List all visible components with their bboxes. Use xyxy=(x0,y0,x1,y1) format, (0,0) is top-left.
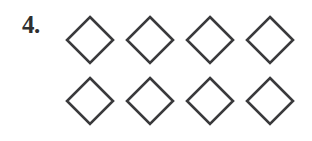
diamond-shape-8 xyxy=(242,73,302,134)
shape-grid xyxy=(62,12,302,134)
diamond-shape-1 xyxy=(62,12,122,73)
diamond-icon xyxy=(64,14,116,66)
diamond-icon xyxy=(244,75,296,127)
diamond-shape-5 xyxy=(62,73,122,134)
diamond-shape-6 xyxy=(122,73,182,134)
worksheet-item: 4. xyxy=(0,0,312,141)
item-number-label: 4. xyxy=(22,10,40,40)
diamond-shape-7 xyxy=(182,73,242,134)
diamond-shape-4 xyxy=(242,12,302,73)
diamond-icon xyxy=(64,75,116,127)
diamond-icon xyxy=(184,14,236,66)
diamond-icon xyxy=(244,14,296,66)
diamond-icon xyxy=(124,75,176,127)
diamond-shape-2 xyxy=(122,12,182,73)
diamond-icon xyxy=(184,75,236,127)
diamond-icon xyxy=(124,14,176,66)
diamond-shape-3 xyxy=(182,12,242,73)
